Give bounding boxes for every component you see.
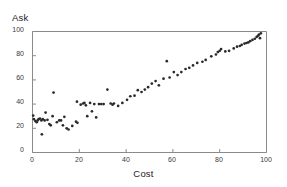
data-point	[201, 60, 204, 63]
data-point	[165, 60, 168, 63]
data-point	[136, 89, 139, 92]
data-point	[93, 103, 96, 106]
axis-tickmarks	[33, 32, 267, 153]
data-point	[89, 102, 92, 105]
axis-spines	[33, 32, 267, 153]
data-point	[143, 88, 146, 91]
data-point	[129, 95, 132, 98]
data-point	[184, 68, 187, 71]
data-point	[91, 110, 94, 113]
data-point	[259, 37, 262, 40]
data-point	[83, 102, 86, 105]
data-point	[49, 124, 52, 127]
data-point	[55, 121, 58, 124]
data-point	[106, 88, 109, 91]
data-point	[228, 50, 231, 53]
data-point	[95, 116, 98, 119]
data-point	[102, 103, 105, 106]
data-point	[62, 124, 65, 127]
data-point	[150, 82, 153, 85]
data-point	[117, 105, 120, 108]
data-point	[224, 50, 227, 53]
data-point	[172, 71, 175, 74]
data-point	[98, 103, 101, 106]
data-point	[140, 91, 143, 94]
data-point	[251, 39, 254, 42]
data-point	[126, 99, 129, 102]
data-point	[168, 76, 171, 79]
plot-canvas	[0, 0, 287, 187]
data-point	[162, 77, 165, 80]
data-point	[192, 64, 195, 67]
data-point	[43, 119, 46, 122]
data-point	[76, 100, 79, 103]
data-point	[52, 91, 55, 94]
data-point	[133, 94, 136, 97]
data-point	[196, 62, 199, 65]
data-point	[249, 40, 252, 43]
data-point-group	[32, 32, 262, 136]
data-point	[188, 66, 191, 69]
data-point	[41, 133, 44, 136]
data-point	[113, 102, 116, 105]
data-point	[147, 86, 150, 89]
data-point	[240, 43, 243, 46]
data-point	[210, 55, 213, 58]
scatter-chart-figure: Ask Cost 100 80 60 40 20 0 0 20 40 60 80…	[0, 0, 287, 187]
data-point	[180, 71, 183, 74]
data-point	[236, 45, 239, 48]
data-point	[71, 125, 74, 128]
data-point	[46, 118, 49, 121]
data-point	[100, 103, 103, 106]
data-point	[51, 115, 54, 118]
data-point	[32, 114, 35, 117]
data-point	[76, 122, 79, 125]
data-point	[63, 115, 66, 118]
data-point	[85, 104, 88, 107]
data-point	[60, 119, 63, 122]
data-point	[67, 128, 70, 131]
data-point	[204, 59, 207, 62]
data-point	[260, 32, 263, 35]
data-point	[121, 102, 124, 105]
data-point	[158, 84, 161, 87]
data-point	[215, 53, 218, 56]
data-point	[86, 115, 89, 118]
data-point	[79, 103, 82, 106]
data-point	[220, 48, 223, 51]
data-point	[44, 111, 47, 114]
data-point	[154, 80, 157, 83]
data-point	[232, 47, 235, 50]
data-point	[176, 74, 179, 77]
